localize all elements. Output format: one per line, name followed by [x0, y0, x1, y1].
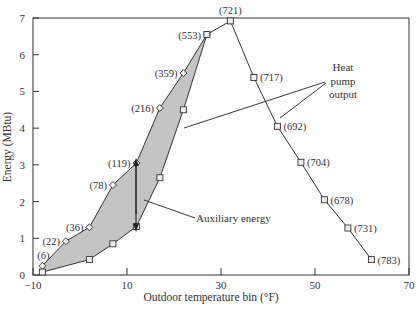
- point-label: (36): [66, 222, 84, 234]
- x-tick-label: −10: [24, 279, 42, 291]
- heat-label-line1: Heat: [333, 61, 354, 73]
- x-tick-label: 70: [404, 279, 416, 291]
- square-marker-icon: [251, 74, 257, 80]
- square-marker-icon: [227, 18, 233, 24]
- square-marker-icon: [345, 225, 351, 231]
- point-label: (731): [354, 223, 377, 235]
- y-tick-label: 1: [20, 232, 26, 244]
- x-tick-label: 30: [216, 279, 228, 291]
- point-label: (704): [307, 157, 330, 169]
- point-label: (78): [89, 180, 107, 192]
- point-label: (359): [155, 68, 178, 80]
- point-label: (717): [260, 72, 283, 84]
- heat-label-line2: pump: [330, 75, 356, 87]
- x-tick-label: 10: [122, 279, 134, 291]
- y-tick-label: 7: [20, 12, 26, 24]
- square-marker-icon: [39, 269, 45, 275]
- square-marker-icon: [368, 257, 374, 263]
- y-tick-label: 3: [20, 159, 26, 171]
- square-marker-icon: [110, 241, 116, 247]
- square-marker-icon: [180, 107, 186, 113]
- square-marker-icon: [157, 175, 163, 181]
- y-tick-label: 0: [20, 269, 26, 281]
- heat-label-line3: output: [329, 88, 357, 100]
- point-label: (119): [108, 158, 131, 170]
- square-marker-icon: [321, 197, 327, 203]
- y-tick-label: 5: [20, 85, 26, 97]
- aux-leader-line: [144, 200, 195, 218]
- point-label: (553): [178, 30, 201, 42]
- square-marker-icon: [274, 123, 280, 129]
- y-tick-label: 6: [20, 49, 26, 61]
- point-label: (783): [377, 255, 400, 267]
- square-marker-icon: [298, 159, 304, 165]
- y-axis-title: Energy (MBtu): [1, 112, 14, 183]
- square-marker-icon: [204, 32, 210, 38]
- point-label: (6): [37, 250, 50, 262]
- point-label: (22): [42, 236, 60, 248]
- point-label: (692): [283, 121, 306, 133]
- point-label: (216): [131, 103, 154, 115]
- point-label: (678): [330, 195, 353, 207]
- x-tick-label: 50: [310, 279, 322, 291]
- chart-canvas: −101030507001234567 (6)(22)(36)(78)(119)…: [0, 0, 420, 310]
- heat-leader-line-2: [280, 83, 326, 118]
- x-axis-title: Outdoor temperature bin (°F): [143, 291, 278, 304]
- aux-energy-label: Auxiliary energy: [196, 212, 271, 224]
- y-tick-label: 4: [20, 122, 26, 134]
- y-tick-label: 2: [20, 196, 26, 208]
- point-label: (721): [219, 5, 242, 17]
- square-marker-icon: [86, 257, 92, 263]
